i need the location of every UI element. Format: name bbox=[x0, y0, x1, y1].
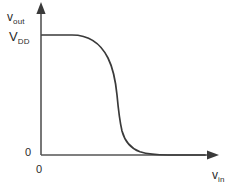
x-tick-label-origin: 0 bbox=[36, 164, 42, 175]
y-tick-label-zero: 0 bbox=[25, 147, 31, 158]
y-tick-label-vdd: VDD bbox=[9, 28, 30, 44]
transfer-curve bbox=[42, 35, 205, 155]
y-axis-label-subscript: out bbox=[13, 17, 25, 26]
arrow-right-icon bbox=[207, 150, 219, 159]
vtc-figure: vout VDD 0 0 vin bbox=[0, 0, 248, 192]
x-axis-label-subscript: in bbox=[218, 175, 225, 184]
x-axis-label: vin bbox=[212, 166, 225, 182]
y-axis-label: vout bbox=[7, 8, 25, 24]
arrow-up-icon bbox=[36, 2, 45, 14]
y-tick-vdd-base: V bbox=[9, 29, 18, 44]
y-tick-vdd-subscript: DD bbox=[18, 37, 30, 46]
